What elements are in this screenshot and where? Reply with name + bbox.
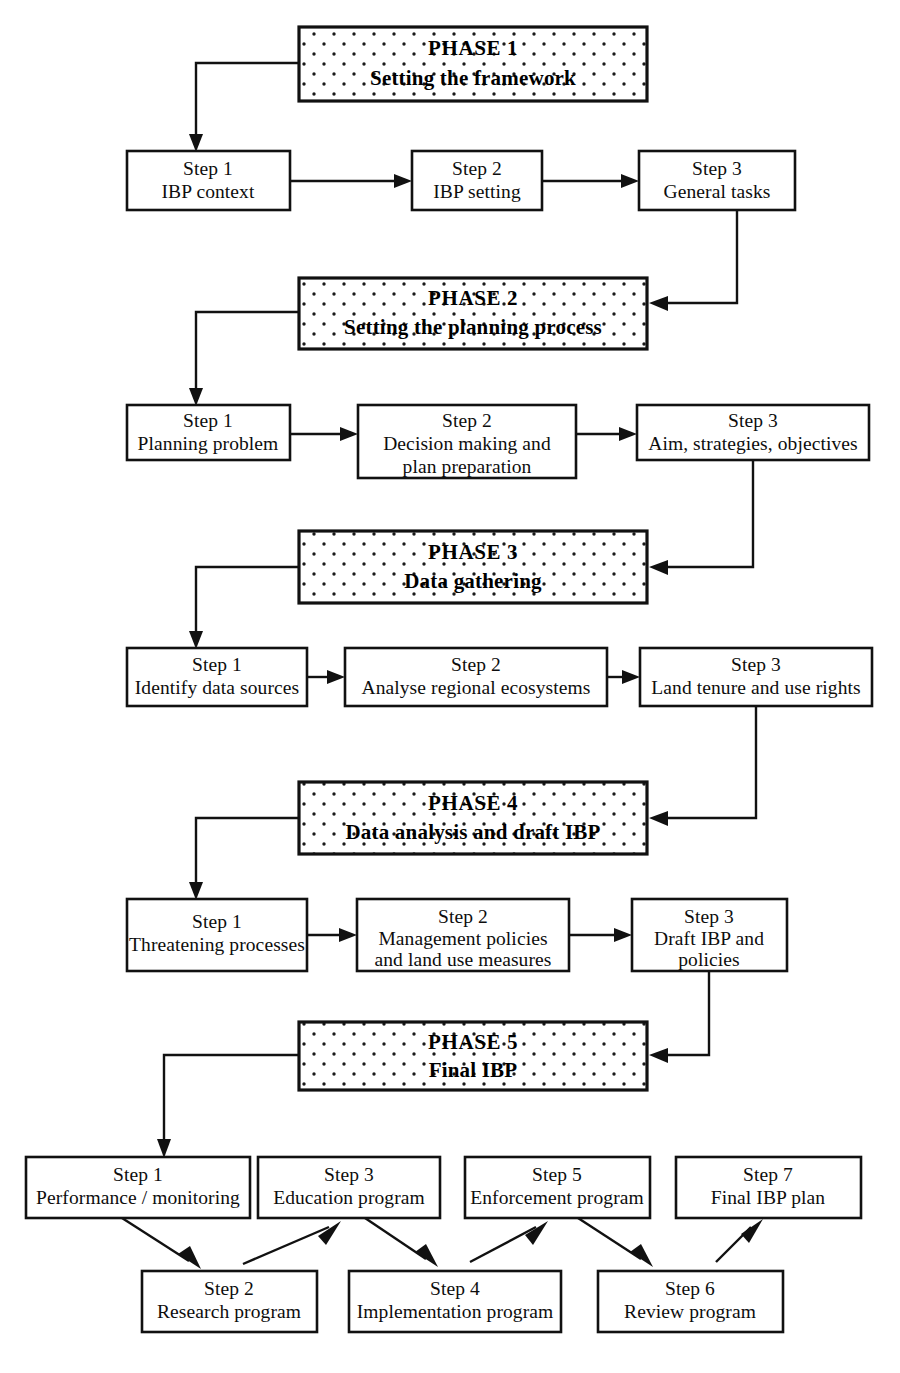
phase-4-subtitle: Data analysis and draft IBP [345,820,600,844]
phase-3-subtitle: Data gathering [404,569,542,593]
step-text: Implementation program [357,1301,554,1322]
step-text-line2: and land use measures [375,949,552,970]
phase-5-step-5: Step 5 Enforcement program [465,1157,650,1218]
phase-3-title: PHASE 3 [428,540,518,564]
phase-5-subtitle: Final IBP [429,1058,518,1082]
phase-5-step-1: Step 1 Performance / monitoring [26,1157,250,1218]
step-text: Planning problem [138,433,279,454]
phase-3-step-1: Step 1 Identify data sources [127,648,307,706]
step-label: Step 2 [452,158,502,179]
step-text: Research program [157,1301,301,1322]
phase-2-header: PHASE 2 Setting the planning process [299,278,647,349]
phase-5-step-2: Step 2 Research program [142,1271,317,1332]
step-text-line2: plan preparation [403,456,532,477]
step-text: Analyse regional ecosystems [361,677,590,698]
step-text: Performance / monitoring [36,1187,240,1208]
step-text: Enforcement program [470,1187,644,1208]
step-label: Step 3 [324,1164,374,1185]
phase-1-subtitle: Setting the framework [370,66,576,90]
step-label: Step 4 [430,1278,480,1299]
step-label: Step 1 [183,410,233,431]
flowchart-diagram: PHASE 1 Setting the framework Step 1 IBP… [0,0,900,1373]
step-label: Step 7 [743,1164,793,1185]
step-label: Step 2 [451,654,501,675]
phase-3-header: PHASE 3 Data gathering [299,531,647,603]
step-text: Review program [624,1301,756,1322]
phase-5-title: PHASE 5 [428,1030,518,1054]
phase-5-step-4: Step 4 Implementation program [349,1271,561,1332]
phase-5-step-6: Step 6 Review program [598,1271,783,1332]
step-text: Final IBP plan [711,1187,826,1208]
phase-5-step-7: Step 7 Final IBP plan [676,1157,861,1218]
step-label: Step 3 [731,654,781,675]
step-label: Step 1 [113,1164,163,1185]
phase-1-step-2: Step 2 IBP setting [412,151,542,210]
phase-4-header: PHASE 4 Data analysis and draft IBP [299,782,647,854]
step-text: Aim, strategies, objectives [648,433,858,454]
step-label: Step 2 [438,906,488,927]
step-label: Step 3 [692,158,742,179]
step-label: Step 3 [684,906,734,927]
phase-2-step-1: Step 1 Planning problem [127,405,290,460]
step-label: Step 1 [183,158,233,179]
step-text: Draft IBP and [654,928,764,949]
phase-1-step-3: Step 3 General tasks [639,151,795,210]
step-text: Education program [273,1187,425,1208]
step-label: Step 5 [532,1164,582,1185]
phase-4-title: PHASE 4 [428,791,518,815]
phase-4-step-2: Step 2 Management policies and land use … [357,899,569,971]
phase-2-subtitle: Setting the planning process [344,315,602,339]
step-text: Threatening processes [129,934,305,955]
step-text: Land tenure and use rights [651,677,860,698]
step-text: Identify data sources [135,677,300,698]
phase-4-step-3: Step 3 Draft IBP and policies [632,899,787,971]
phase-3-step-2: Step 2 Analyse regional ecosystems [345,648,607,706]
step-label: Step 1 [192,654,242,675]
phase-2-title: PHASE 2 [428,286,518,310]
step-label: Step 2 [442,410,492,431]
step-label: Step 3 [728,410,778,431]
step-text: Decision making and [383,433,551,454]
phase-1-header: PHASE 1 Setting the framework [299,27,647,101]
step-label: Step 2 [204,1278,254,1299]
phase-2-step-3: Step 3 Aim, strategies, objectives [637,405,869,460]
step-text: Management policies [378,928,547,949]
step-label: Step 6 [665,1278,715,1299]
step-text-line2: policies [678,949,739,970]
step-text: IBP setting [433,181,521,202]
step-text: IBP context [162,181,255,202]
phase-3-step-3: Step 3 Land tenure and use rights [640,648,872,706]
step-label: Step 1 [192,911,242,932]
phase-1-title: PHASE 1 [428,36,518,60]
phase-4-step-1: Step 1 Threatening processes [127,899,307,971]
phase-5-header: PHASE 5 Final IBP [299,1022,647,1090]
phase-1-step-1: Step 1 IBP context [127,151,290,210]
phase-5-step-3: Step 3 Education program [258,1157,440,1218]
step-text: General tasks [664,181,771,202]
